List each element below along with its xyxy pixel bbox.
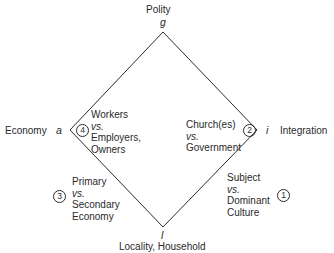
edge-line-vs: vs. bbox=[72, 188, 120, 200]
edge-line: Economy bbox=[72, 211, 120, 223]
edge-number-3: 3 bbox=[53, 190, 66, 203]
edge-line: Employers, bbox=[91, 132, 141, 144]
edge-line: Subject bbox=[227, 172, 270, 184]
vertex-letter-i: i bbox=[266, 125, 268, 136]
edge-line: Workers bbox=[91, 109, 141, 121]
edge-line: Dominant bbox=[227, 195, 270, 207]
edge-line: Church(es) bbox=[186, 119, 241, 131]
edge-line: Owners bbox=[91, 144, 141, 156]
vertex-label-economy: Economy bbox=[5, 125, 47, 136]
edge-line: Government bbox=[186, 142, 241, 154]
edge-label-churches-vs-government: Church(es) vs. Government bbox=[186, 119, 241, 154]
vertex-letter-l: l bbox=[161, 230, 163, 241]
edge-line-vs: vs. bbox=[186, 131, 241, 143]
edge-line: Culture bbox=[227, 207, 270, 219]
edge-label-subject-vs-dominant-culture: Subject vs. Dominant Culture bbox=[227, 172, 270, 218]
agil-diamond-diagram: Polity g Economy a i Integration l Local… bbox=[0, 0, 334, 253]
edge-label-workers-vs-employers: Workers vs. Employers, Owners bbox=[91, 109, 141, 155]
edge-line-vs: vs. bbox=[91, 121, 141, 133]
edge-number-4: 4 bbox=[76, 124, 89, 137]
vertex-letter-g: g bbox=[160, 17, 166, 28]
edge-line: Primary bbox=[72, 176, 120, 188]
edge-number-1: 1 bbox=[277, 189, 290, 202]
vertex-label-integration: Integration bbox=[280, 125, 327, 136]
edge-line-vs: vs. bbox=[227, 184, 270, 196]
vertex-letter-a: a bbox=[56, 125, 62, 136]
vertex-label-locality-household: Locality, Household bbox=[119, 241, 206, 252]
edge-line: Secondary bbox=[72, 199, 120, 211]
vertex-label-polity: Polity bbox=[146, 4, 170, 15]
edge-number-2: 2 bbox=[243, 124, 256, 137]
edge-label-primary-vs-secondary: Primary vs. Secondary Economy bbox=[72, 176, 120, 222]
